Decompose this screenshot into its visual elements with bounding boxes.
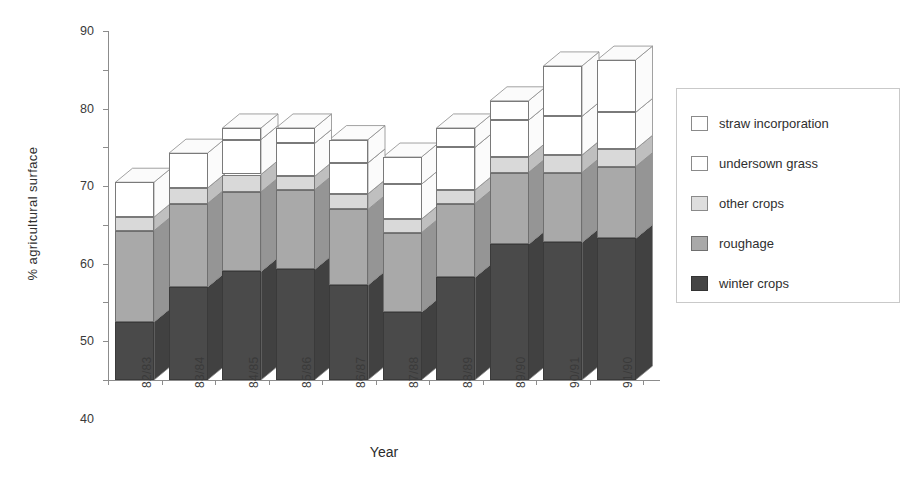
bar-segment-undersown[interactable] xyxy=(543,116,582,155)
bar[interactable] xyxy=(222,128,261,380)
bar-segment-undersown[interactable] xyxy=(490,120,529,157)
x-tick-label: 82/83 xyxy=(140,356,154,388)
legend-item[interactable]: undersown grass xyxy=(691,145,887,181)
bar-segment-undersown[interactable] xyxy=(222,140,261,175)
bar-segment-roughage[interactable] xyxy=(436,204,475,278)
bar-segment-other[interactable] xyxy=(490,157,529,173)
bar-segment-roughage[interactable] xyxy=(490,173,529,245)
legend-label: winter crops xyxy=(719,276,789,291)
y-tick-label: 50 xyxy=(80,334,94,348)
bar-segment-roughage[interactable] xyxy=(329,209,368,285)
y-tick-label: 70 xyxy=(80,179,94,193)
bar-segment-straw[interactable] xyxy=(543,66,582,116)
bar-segment-roughage[interactable] xyxy=(222,192,261,271)
bar-segment-other[interactable] xyxy=(169,188,208,204)
bar-segment-undersown[interactable] xyxy=(597,112,636,149)
legend-item[interactable]: winter crops xyxy=(691,265,887,301)
legend-label: undersown grass xyxy=(719,156,818,171)
bar-segment-straw[interactable] xyxy=(276,128,315,144)
x-tick-label: 87/88 xyxy=(407,356,421,388)
bar[interactable] xyxy=(276,128,315,380)
y-tick-label: 90 xyxy=(80,24,94,38)
bar-side-face xyxy=(636,224,653,380)
bar-segment-roughage[interactable] xyxy=(597,167,636,239)
plot-area: 0102030405060708090 82/8383/8484/8585/86… xyxy=(108,31,660,380)
bar[interactable] xyxy=(329,140,368,380)
bar-segment-straw[interactable] xyxy=(115,182,154,217)
legend-item[interactable]: roughage xyxy=(691,225,887,261)
legend-swatch-icon xyxy=(691,196,708,211)
x-tick-label: 89/90 xyxy=(514,356,528,388)
legend-swatch-icon xyxy=(691,276,708,291)
bar-segment-roughage[interactable] xyxy=(543,173,582,243)
bar[interactable] xyxy=(383,157,422,380)
bar-side-face xyxy=(636,153,653,239)
chart-legend: straw incorporationundersown grassother … xyxy=(676,88,900,303)
bar[interactable] xyxy=(436,128,475,380)
x-tick-label: 83/84 xyxy=(193,356,207,388)
bar-segment-other[interactable] xyxy=(115,217,154,231)
legend-swatch-icon xyxy=(691,116,708,131)
bar-segment-undersown[interactable] xyxy=(276,143,315,176)
x-tick-label: 88/89 xyxy=(461,356,475,388)
bar-segment-roughage[interactable] xyxy=(115,231,154,322)
legend-item[interactable]: straw incorporation xyxy=(691,105,887,141)
bar-segment-straw[interactable] xyxy=(169,153,208,188)
x-tick-label: 84/85 xyxy=(247,356,261,388)
x-tick-label: 86/87 xyxy=(354,356,368,388)
bar-segment-roughage[interactable] xyxy=(383,233,422,312)
legend-item[interactable]: other crops xyxy=(691,185,887,221)
bar-segment-other[interactable] xyxy=(276,176,315,190)
stacked-bar-chart-figure: % agricultural surface 01020304050607080… xyxy=(0,0,918,482)
bar-segment-undersown[interactable] xyxy=(383,184,422,219)
legend-swatch-icon xyxy=(691,236,708,251)
y-tick-label: 80 xyxy=(80,102,94,116)
bar-segment-straw[interactable] xyxy=(490,101,529,120)
legend-swatch-icon xyxy=(691,156,708,171)
bar-segment-straw[interactable] xyxy=(436,128,475,147)
x-tick-label: 91/90 xyxy=(621,356,635,388)
bar-segment-other[interactable] xyxy=(329,194,368,210)
bar[interactable] xyxy=(543,66,582,380)
bar-segment-straw[interactable] xyxy=(222,128,261,140)
bar-segment-other[interactable] xyxy=(222,175,261,192)
y-tick-label: 40 xyxy=(80,412,94,426)
bar-segment-roughage[interactable] xyxy=(276,190,315,269)
bar-segment-undersown[interactable] xyxy=(436,147,475,190)
bar[interactable] xyxy=(597,60,636,380)
bar[interactable] xyxy=(490,101,529,380)
bar-segment-straw[interactable] xyxy=(329,140,368,163)
bar[interactable] xyxy=(169,153,208,380)
y-axis-title: % agricultural surface xyxy=(25,104,40,324)
bar-segment-other[interactable] xyxy=(543,155,582,172)
legend-label: straw incorporation xyxy=(719,116,829,131)
bar-segment-other[interactable] xyxy=(436,190,475,204)
x-axis-title: Year xyxy=(108,444,660,460)
bar-segment-other[interactable] xyxy=(383,219,422,233)
bar-segment-undersown[interactable] xyxy=(329,163,368,194)
x-tick-label: 85/86 xyxy=(300,356,314,388)
x-tick-label: 90/91 xyxy=(568,356,582,388)
bar-segment-straw[interactable] xyxy=(597,60,636,112)
bar[interactable] xyxy=(115,182,154,380)
legend-label: roughage xyxy=(719,236,774,251)
bar-segment-straw[interactable] xyxy=(383,157,422,184)
y-tick-label: 60 xyxy=(80,257,94,271)
bar-segment-roughage[interactable] xyxy=(169,204,208,287)
bar-segment-other[interactable] xyxy=(597,149,636,166)
legend-label: other crops xyxy=(719,196,784,211)
